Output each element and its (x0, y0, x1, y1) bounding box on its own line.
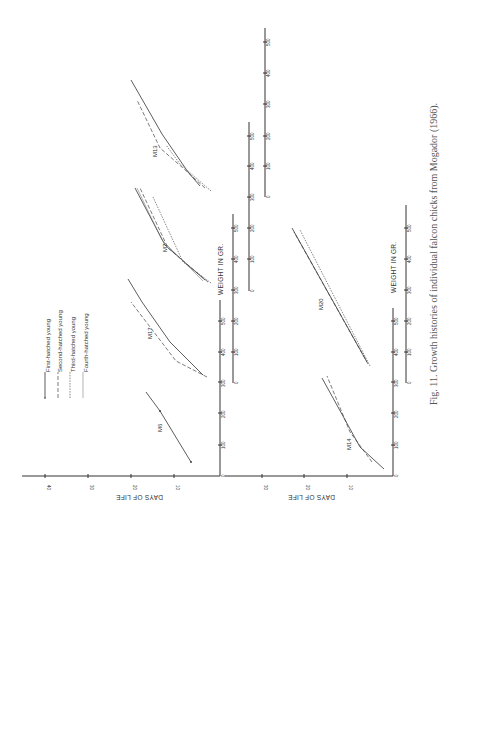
series-M6: M6 (146, 392, 192, 463)
svg-text:400: 400 (221, 348, 226, 356)
legend-item-second: Second-hatched young (57, 310, 63, 372)
svg-text:500: 500 (221, 317, 226, 325)
svg-text:300: 300 (221, 379, 226, 387)
svg-text:200: 200 (407, 317, 412, 325)
svg-text:100: 100 (250, 255, 255, 263)
top-weight-axis-4: 0 100 200 300 400 500 (263, 28, 271, 198)
legend-item-first: First-hatched young (45, 319, 51, 372)
svg-text:500: 500 (394, 317, 399, 325)
svg-text:100: 100 (407, 348, 412, 356)
x-axis-label-bottom: WEIGHT IN GR. (390, 242, 397, 293)
svg-text:30: 30 (89, 485, 94, 491)
svg-text:200: 200 (394, 410, 399, 418)
svg-text:400: 400 (266, 69, 271, 77)
label-M20: M20 (318, 298, 324, 310)
y-axis-label-top: DAYS OF LIFE (115, 494, 163, 501)
top-weight-axis-3: 0 100 200 300 400 500 (247, 122, 255, 292)
svg-text:500: 500 (266, 38, 271, 46)
svg-text:300: 300 (394, 379, 399, 387)
svg-text:100: 100 (234, 348, 239, 356)
svg-text:10: 10 (175, 485, 180, 491)
top-days-axis: 40 30 20 10 DAYS OF LIFE (22, 474, 220, 501)
figure-canvas: 40 30 20 10 DAYS OF LIFE 0 100 200 300 4… (0, 0, 485, 746)
legend-item-third: Third-hatched young (70, 317, 76, 372)
svg-text:10: 10 (348, 485, 353, 491)
series-M20: M20 (292, 228, 370, 366)
svg-text:200: 200 (250, 224, 255, 232)
svg-text:40: 40 (46, 485, 51, 491)
svg-text:30: 30 (263, 485, 268, 491)
svg-text:20: 20 (305, 485, 310, 491)
svg-text:0: 0 (407, 381, 412, 384)
svg-text:300: 300 (234, 286, 239, 294)
legend: First-hatched young Second-hatched young… (44, 310, 89, 399)
svg-text:0: 0 (250, 289, 255, 292)
x-axis-label-top: WEIGHT IN GR. (217, 244, 224, 295)
svg-text:500: 500 (234, 224, 239, 232)
svg-text:400: 400 (407, 255, 412, 263)
svg-text:500: 500 (407, 224, 412, 232)
series-M13: M13 (131, 80, 211, 191)
figure-caption: Fig. 11. Growth histories of individual … (428, 103, 440, 405)
series-M14: M14 (322, 376, 384, 469)
svg-text:300: 300 (250, 193, 255, 201)
label-M14: M14 (346, 438, 352, 450)
y-axis-label-bottom: DAYS OF LIFE (287, 494, 335, 501)
label-M7: M7 (162, 243, 168, 252)
label-M13: M13 (152, 145, 158, 157)
svg-text:0: 0 (394, 474, 399, 477)
bottom-weight-axis-1: 0 100 200 300 400 500 (391, 308, 399, 477)
svg-text:100: 100 (266, 162, 271, 170)
legend-item-fourth: Fourth-hatched young (83, 313, 89, 372)
series-M7: M7 (135, 188, 211, 283)
series-M17: M17 (128, 279, 207, 377)
top-weight-axis-1: 0 100 200 300 400 500 (218, 300, 226, 477)
svg-text:100: 100 (221, 441, 226, 449)
svg-text:200: 200 (234, 317, 239, 325)
svg-text:200: 200 (266, 132, 271, 140)
svg-text:0: 0 (234, 381, 239, 384)
svg-text:400: 400 (394, 348, 399, 356)
svg-text:200: 200 (221, 410, 226, 418)
svg-text:20: 20 (132, 485, 137, 491)
top-weight-axis-2: 0 100 200 300 400 500 (231, 214, 239, 384)
label-M17: M17 (147, 327, 153, 339)
svg-text:500: 500 (250, 132, 255, 140)
svg-text:100: 100 (394, 441, 399, 449)
svg-text:400: 400 (250, 162, 255, 170)
bottom-weight-axis-2: 0 100 200 300 400 500 (404, 205, 412, 384)
svg-text:0: 0 (266, 195, 271, 198)
label-M6: M6 (157, 423, 163, 432)
bottom-days-axis: 30 20 10 DAYS OF LIFE (225, 474, 393, 501)
svg-text:300: 300 (266, 100, 271, 108)
svg-text:400: 400 (234, 255, 239, 263)
svg-text:300: 300 (407, 286, 412, 294)
